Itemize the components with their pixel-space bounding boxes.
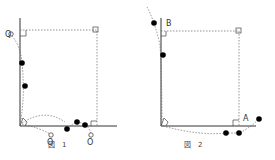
fig1-right-angle-top-left bbox=[20, 30, 26, 36]
fig1-curve-q bbox=[12, 36, 23, 126]
fig1-label-o2: O bbox=[87, 138, 93, 147]
fig2-dotted-rect bbox=[161, 31, 239, 126]
diagram-canvas: Q O O 図 1 B A 図 2 bbox=[0, 0, 275, 160]
fig1-point bbox=[64, 126, 70, 132]
fig2-point bbox=[236, 130, 242, 136]
fig2-right-angle-top-right bbox=[236, 28, 241, 33]
fig1-dotted-rect bbox=[20, 30, 97, 126]
fig2-right-angle-bottom-right bbox=[233, 120, 239, 126]
fig1-point bbox=[74, 119, 80, 125]
fig2-caption: 図 2 bbox=[184, 141, 202, 149]
fig2-point bbox=[256, 116, 262, 122]
fig1-open-point-o1 bbox=[49, 133, 53, 137]
fig1-open-point-o2 bbox=[89, 133, 93, 137]
fig1-right-angle-bottom-right bbox=[91, 121, 97, 126]
fig1-point bbox=[22, 83, 28, 89]
fig1-point bbox=[82, 122, 88, 128]
fig1-label-q: Q bbox=[5, 30, 11, 39]
figure-1: Q O O 図 1 bbox=[5, 18, 117, 149]
fig2-label-a: A bbox=[243, 114, 249, 123]
fig2-point bbox=[151, 20, 157, 26]
fig2-label-b: B bbox=[166, 19, 172, 28]
fig1-point bbox=[19, 60, 25, 66]
fig2-point bbox=[223, 130, 229, 136]
fig1-caption: 図 1 bbox=[48, 141, 66, 149]
figure-2: B A 図 2 bbox=[147, 7, 262, 149]
fig2-right-angle-top-left bbox=[161, 31, 166, 36]
fig1-arc-bottom bbox=[22, 115, 65, 123]
fig2-point bbox=[160, 52, 166, 58]
